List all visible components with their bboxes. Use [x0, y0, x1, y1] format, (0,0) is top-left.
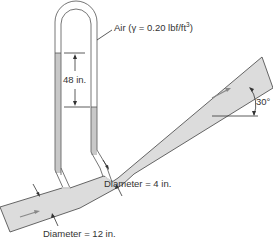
inlet-diameter-label: Diameter = 12 in.	[43, 228, 116, 239]
air-leader-line	[97, 30, 112, 40]
u-tube-manometer	[55, 1, 112, 190]
left-leg-liquid	[55, 53, 61, 173]
venturi-pipe	[0, 57, 273, 232]
height-label: 48 in.	[63, 74, 86, 85]
height-dimension: 48 in.	[63, 53, 90, 107]
right-leg-liquid	[91, 107, 97, 155]
angle-label: 30°	[256, 96, 271, 107]
air-label: Air (γ = 0.20 lbf/ft3)	[114, 21, 193, 33]
throat-diameter-label: Diameter = 4 in.	[104, 178, 171, 189]
venturi-diagram: 48 in. Air (γ = 0.20 lbf/ft3) Diameter =…	[0, 0, 273, 243]
